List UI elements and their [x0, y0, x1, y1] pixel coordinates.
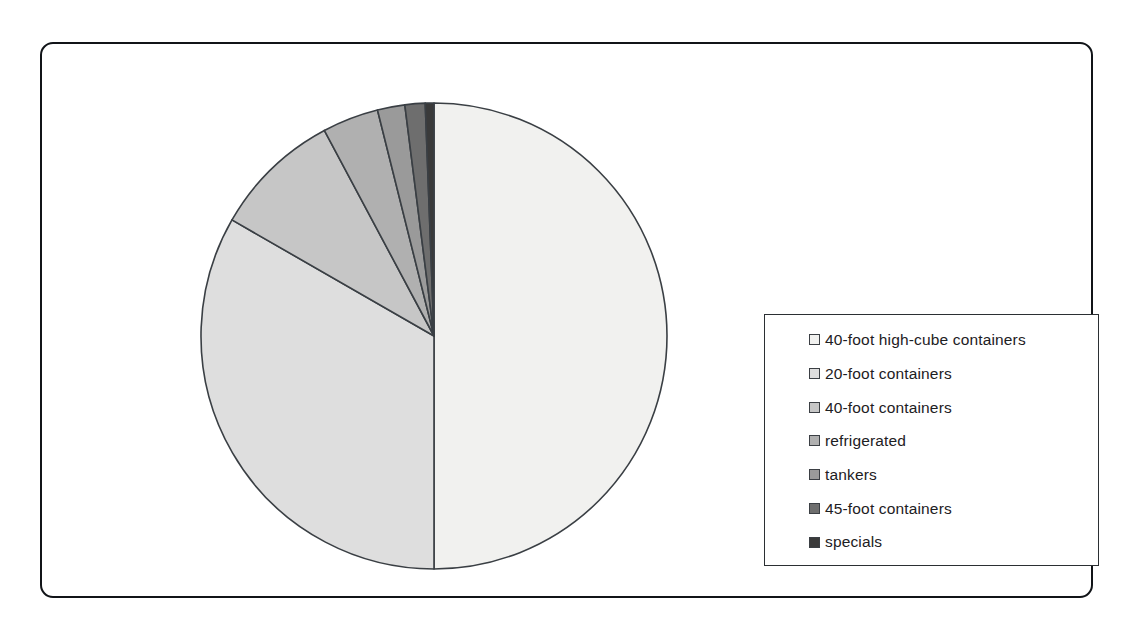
pie-chart-svg — [199, 101, 669, 571]
legend-item-label: specials — [825, 534, 882, 550]
legend-item[interactable]: 40-foot high-cube containers — [809, 325, 1092, 355]
pie-slice-group — [201, 103, 667, 569]
pie-chart — [199, 101, 669, 571]
legend-item-label: 40-foot containers — [825, 400, 952, 416]
legend-item[interactable]: 20-foot containers — [809, 359, 1092, 389]
legend-swatch-icon — [809, 537, 820, 548]
legend-item[interactable]: refrigerated — [809, 426, 1092, 456]
legend-item[interactable]: 40-foot containers — [809, 392, 1092, 422]
legend-item-label: 45-foot containers — [825, 501, 952, 517]
legend-swatch-icon — [809, 368, 820, 379]
legend-item-label: refrigerated — [825, 433, 906, 449]
legend-swatch-icon — [809, 469, 820, 480]
legend-item[interactable]: tankers — [809, 460, 1092, 490]
legend-item-list: 40-foot high-cube containers20-foot cont… — [809, 323, 1092, 559]
figure-root: 40-foot high-cube containers20-foot cont… — [0, 0, 1124, 634]
legend-swatch-icon — [809, 435, 820, 446]
legend-box: 40-foot high-cube containers20-foot cont… — [764, 314, 1099, 566]
chart-frame: 40-foot high-cube containers20-foot cont… — [40, 42, 1093, 598]
legend-item-label: tankers — [825, 467, 877, 483]
legend-swatch-icon — [809, 503, 820, 514]
legend-swatch-icon — [809, 334, 820, 345]
legend-item[interactable]: 45-foot containers — [809, 493, 1092, 523]
legend-item-label: 20-foot containers — [825, 366, 952, 382]
legend-swatch-icon — [809, 402, 820, 413]
legend-item[interactable]: specials — [809, 527, 1092, 557]
pie-slice[interactable] — [434, 103, 667, 569]
legend-item-label: 40-foot high-cube containers — [825, 332, 1026, 348]
